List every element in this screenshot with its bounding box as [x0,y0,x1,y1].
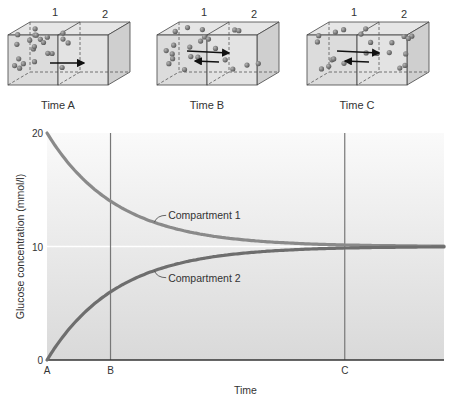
glucose-particle [188,54,193,59]
compartment-2-label: 2 [102,8,108,20]
glucose-particle [12,63,17,68]
glucose-particle [319,66,324,71]
compartment-2-label: 2 [401,8,407,20]
x-tick-label: C [341,365,348,376]
glucose-particle [60,37,65,42]
glucose-particle [236,28,241,33]
glucose-particle [60,30,65,35]
y-axis-label: Glucose concentration (mmol/l) [14,174,26,319]
y-tick-label: 10 [32,242,44,253]
glucose-particle [32,44,37,49]
glucose-particle [195,55,200,60]
glucose-particle [16,56,21,61]
glucose-particle [244,63,249,68]
glucose-particle [60,65,65,70]
glucose-particle [14,42,19,47]
arrow-left-icon [345,61,369,62]
series-label-compartment-1: Compartment 1 [168,209,241,221]
glucose-particle [21,61,26,66]
glucose-particle [358,31,363,36]
glucose-particle [41,40,46,45]
panel-time-b: 12Time B [157,6,279,111]
compartment-1-label: 1 [201,6,207,18]
glucose-particle [173,29,178,34]
y-tick-label: 0 [37,355,43,366]
compartment-2-front [58,35,108,85]
glucose-particle [27,38,32,43]
glucose-particle [66,40,71,45]
glucose-particle [341,27,346,32]
panel-time-c: 12Time C [307,6,429,111]
glucose-particle [223,57,228,62]
glucose-particle [32,59,37,64]
glucose-particle [406,36,411,41]
y-tick-label: 20 [32,128,44,139]
arrow-left-icon [195,61,219,62]
panel-caption: Time B [190,99,224,111]
glucose-particle [316,33,321,38]
glucose-particle [333,29,338,34]
glucose-particle [206,37,211,42]
x-tick-label: A [44,365,51,376]
glucose-particle [200,27,205,32]
glucose-particle [315,39,320,44]
concentration-chart: ABC01020TimeGlucose concentration (mmol/… [14,128,444,396]
glucose-particle [166,61,171,66]
compartment-panels: 12Time A12Time B12Time C [8,6,429,111]
compartment-1-label: 1 [351,6,357,18]
glucose-particle [213,46,218,51]
glucose-particle [368,40,373,45]
compartment-1-label: 1 [52,6,58,18]
x-axis-label: Time [234,384,257,396]
glucose-particle [17,66,22,71]
glucose-particle [387,50,392,55]
glucose-particle [326,64,331,69]
glucose-particle [185,25,190,30]
compartment-2-front [207,35,257,85]
glucose-particle [256,61,261,66]
series-label-compartment-2: Compartment 2 [168,272,241,284]
glucose-particle [170,51,175,56]
panel-caption: Time C [339,99,374,111]
glucose-particle [198,39,203,44]
glucose-particle [331,56,336,61]
panel-time-a: 12Time A [8,6,130,111]
compartment-2-label: 2 [251,8,257,20]
glucose-particle [171,43,176,48]
glucose-particle [402,63,407,68]
glucose-particle [170,56,175,61]
glucose-particle [187,45,192,50]
x-tick-label: B [107,365,114,376]
glucose-particle [34,33,39,38]
glucose-particle [182,67,187,72]
glucose-particle [15,32,20,37]
glucose-particle [363,26,368,31]
diffusion-diagram: 12Time A12Time B12Time C ABC01020TimeGlu… [0,0,454,403]
glucose-particle [230,66,235,71]
glucose-particle [397,66,402,71]
glucose-particle [33,26,38,31]
glucose-particle [45,35,50,40]
glucose-particle [389,40,394,45]
glucose-particle [45,51,50,56]
glucose-particle [164,48,169,53]
glucose-particle [403,51,408,56]
compartment-2-front [357,35,407,85]
panel-caption: Time A [41,99,75,111]
